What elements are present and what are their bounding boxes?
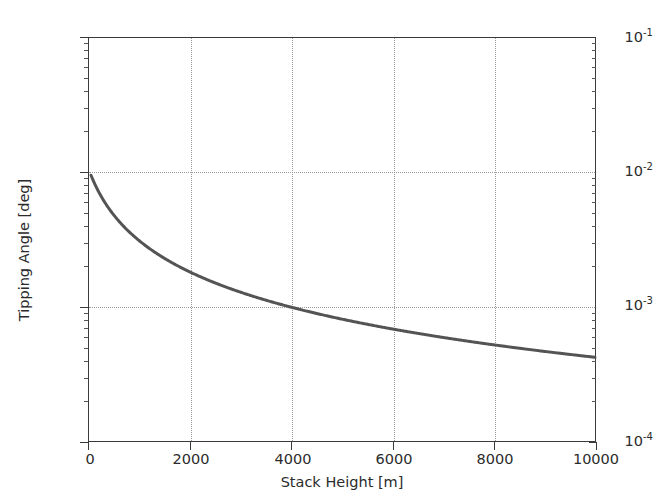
ytick-mark-right-minor [592,43,596,44]
ytick-mark-minor [84,361,88,362]
xtick-mark-major [88,442,89,450]
ytick-mark-minor [84,328,88,329]
ytick-mark-minor [84,243,88,244]
ytick-mark-minor [84,378,88,379]
ytick-exponent: -1 [643,27,653,38]
plot-area [88,37,596,442]
xtick-mark-major [190,442,191,450]
ytick-mark-right-minor [592,193,596,194]
ytick-mark-right-minor [592,313,596,314]
ytick-mark-minor [84,213,88,214]
series-line-tipping-angle [91,175,595,357]
xtick-mark-major [596,442,597,450]
ytick-mark-minor [84,43,88,44]
ytick-mark-minor [84,91,88,92]
ytick-mark-right-minor [592,91,596,92]
ytick-mark-right-minor [592,78,596,79]
ytick-mark-minor [84,202,88,203]
ytick-mantissa: 10 [625,29,643,45]
ytick-mantissa: 10 [625,163,643,179]
ytick-mark-minor [84,67,88,68]
ytick-mark-minor [84,313,88,314]
ytick-mark-major [80,307,88,308]
ytick-mantissa: 10 [625,297,643,313]
ytick-mark-minor [84,320,88,321]
ytick-exponent: -2 [643,161,653,172]
ytick-mark-major [80,442,88,443]
ytick-mark-minor [84,131,88,132]
ytick-mark-right [589,442,596,443]
ytick-mark-minor [84,185,88,186]
ytick-exponent: -3 [643,295,653,306]
ytick-mark-minor [84,108,88,109]
ytick-mark-right-minor [592,328,596,329]
ytick-mark-right-minor [592,213,596,214]
ytick-mark-right-minor [592,50,596,51]
ytick-mark-right-minor [592,401,596,402]
ytick-mark-right-minor [592,361,596,362]
ytick-mark-minor [84,193,88,194]
ytick-mantissa: 10 [625,433,643,449]
ytick-mark-right-minor [592,67,596,68]
ytick-mark-minor [84,50,88,51]
ytick-mark-right-minor [592,266,596,267]
ytick-mark-minor [84,348,88,349]
ytick-mark-minor [84,78,88,79]
ytick-mark-right-minor [592,108,596,109]
ytick-mark-major [80,37,88,38]
xtick-label-10000: 10000 [536,452,653,467]
ytick-mark-right-minor [592,337,596,338]
ytick-mark-right-minor [592,378,596,379]
ytick-exponent: -4 [643,431,653,442]
data-curve-svg [89,38,595,441]
ytick-mark-right-minor [592,348,596,349]
xtick-mark-major [393,442,394,450]
ytick-mark-right-minor [592,226,596,227]
ytick-mark-minor [84,178,88,179]
x-axis-title: Stack Height [m] [88,474,596,490]
ytick-mark-minor [84,401,88,402]
ytick-mark-minor [84,226,88,227]
xtick-mark-major [291,442,292,450]
ytick-mark-right-minor [592,178,596,179]
figure-canvas: 10-1 10-2 10-3 10-4 0 2000 4000 6000 800… [0,0,653,503]
ytick-mark-right-minor [592,58,596,59]
ytick-mark-right-minor [592,185,596,186]
ytick-mark-right-minor [592,131,596,132]
ytick-mark-right-minor [592,320,596,321]
ytick-mark-minor [84,58,88,59]
ytick-mark-minor [84,266,88,267]
ytick-mark-minor [84,337,88,338]
ytick-mark-right-minor [592,202,596,203]
ytick-mark-right-minor [592,243,596,244]
xtick-mark-major [494,442,495,450]
y-axis-title: Tipping Angle [deg] [16,150,32,350]
ytick-mark-major [80,172,88,173]
